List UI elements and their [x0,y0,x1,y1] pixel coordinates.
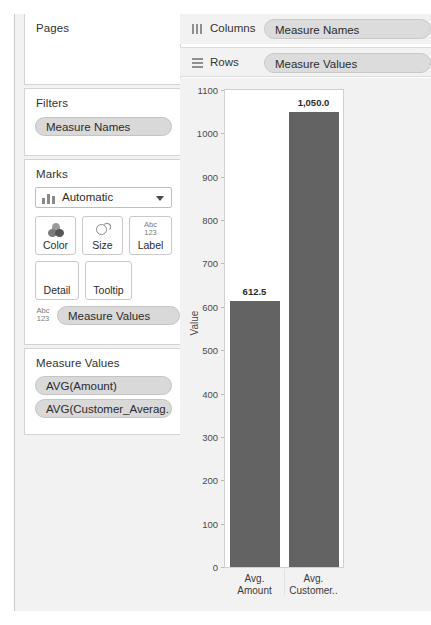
size-circle-icon [96,223,111,238]
chart-view[interactable]: Value 0100200300400500600700800900100011… [180,78,431,611]
y-tick-label: 0 [180,562,218,573]
y-tick-label: 300 [180,431,218,442]
y-tick-label: 100 [180,518,218,529]
columns-icon [192,24,203,34]
chevron-down-icon[interactable] [156,196,164,201]
tableau-worksheet: Pages Filters Measure Names Marks Automa… [0,0,431,625]
filter-pill-measure-names[interactable]: Measure Names [35,117,172,136]
y-tick-label: 800 [180,215,218,226]
marks-card[interactable]: Marks Automatic Color Size Abc 123 Label [24,159,181,345]
abc123-icon: Abc 123 [141,221,161,237]
marks-card-title: Marks [36,168,68,180]
bar-value-label: 612.5 [243,286,267,297]
measure-value-pill-avg-amount[interactable]: AVG(Amount) [35,376,172,395]
marks-color-button[interactable]: Color [35,216,76,255]
x-tick-label-line: Avg. [289,573,337,585]
bar-chart-icon [42,193,55,204]
x-tick-label: Avg.Customer.. [289,573,337,597]
columns-shelf-pill[interactable]: Measure Names [264,19,431,39]
y-tick-label: 1100 [180,85,218,96]
mark-type-label: Automatic [62,191,113,203]
marks-label-button[interactable]: Abc 123 Label [129,216,172,255]
num123-text: 123 [37,314,50,323]
x-tick-label-line: Amount [237,585,271,597]
y-tick-label: 600 [180,301,218,312]
mark-type-dropdown[interactable]: Automatic [35,187,172,208]
filters-card-title: Filters [36,97,68,109]
rows-shelf[interactable]: Rows Measure Values [180,47,431,77]
color-palette-icon [48,223,65,238]
filters-card[interactable]: Filters Measure Names [24,88,181,156]
bar[interactable] [230,301,280,567]
marks-color-label: Color [36,239,75,251]
marks-tooltip-label: Tooltip [86,284,131,296]
columns-shelf[interactable]: Columns Measure Names [180,14,431,44]
bar[interactable] [289,112,339,567]
marks-detail-button[interactable]: Detail [35,261,79,300]
num123-text: 123 [144,228,157,237]
pages-card[interactable]: Pages [24,14,181,85]
rows-shelf-label: Rows [210,56,239,68]
y-tick-label: 500 [180,345,218,356]
measure-values-card[interactable]: Measure Values AVG(Amount) AVG(Customer_… [24,348,181,435]
rows-shelf-pill[interactable]: Measure Values [264,53,431,73]
bar-value-label: 1,050.0 [298,97,330,108]
marks-size-button[interactable]: Size [82,216,123,255]
marks-detail-label: Detail [36,284,78,296]
x-tick-label-line: Avg. [237,573,271,585]
y-tick-label: 400 [180,388,218,399]
x-axis-separator [284,569,285,595]
y-axis: 010020030040050060070080090010001100 [180,78,220,611]
y-tick-label: 200 [180,475,218,486]
shelf-panel: Pages Filters Measure Names Marks Automa… [14,14,180,611]
measure-value-pill-avg-customer-average[interactable]: AVG(Customer_Averag.. [35,399,172,418]
x-tick-label-line: Customer.. [289,585,337,597]
marks-size-label: Size [83,239,122,251]
abc123-icon: Abc 123 [33,307,53,323]
pages-card-title: Pages [36,22,69,34]
rows-icon [192,58,203,68]
y-tick-label: 900 [180,171,218,182]
y-tick-label: 1000 [180,128,218,139]
y-tick-label: 700 [180,258,218,269]
measure-values-card-title: Measure Values [36,357,120,369]
columns-shelf-label: Columns [210,22,255,34]
marks-tooltip-button[interactable]: Tooltip [85,261,132,300]
marks-pill-measure-values[interactable]: Measure Values [57,306,180,325]
marks-label-label: Label [130,239,171,251]
x-tick-label: Avg.Amount [237,573,271,597]
